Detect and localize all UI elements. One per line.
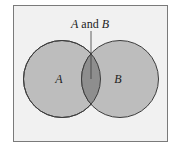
intersection-label: A and B — [70, 17, 110, 31]
set-b-label: B — [114, 72, 122, 86]
venn-diagram: A and B A B — [0, 0, 179, 154]
set-a-label: A — [54, 72, 63, 86]
